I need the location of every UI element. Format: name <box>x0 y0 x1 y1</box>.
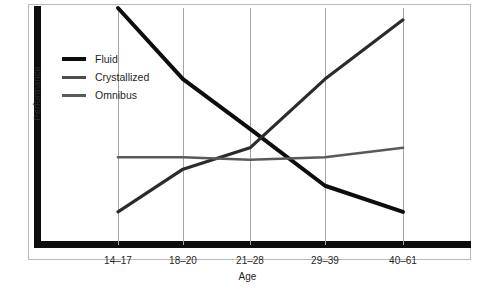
series-line-omnibus <box>118 148 403 160</box>
figure: Fluid Crystallized Omnibus Performance 1… <box>0 0 495 293</box>
x-tick-label-1: 18–20 <box>153 255 213 266</box>
legend-label-omnibus: Omnibus <box>95 89 137 101</box>
plot-lines <box>0 0 495 293</box>
legend-swatch-crystallized <box>62 76 86 79</box>
x-tick-label-0: 14–17 <box>88 255 148 266</box>
chart-legend: Fluid Crystallized Omnibus <box>62 50 149 104</box>
legend-swatch-fluid <box>62 57 86 61</box>
legend-item-fluid: Fluid <box>62 50 149 68</box>
y-axis-label: Performance <box>31 44 42 144</box>
x-tick-label-4: 40–61 <box>373 255 433 266</box>
legend-item-omnibus: Omnibus <box>62 86 149 104</box>
series-line-crystallized <box>118 20 403 212</box>
legend-swatch-omnibus <box>62 94 86 97</box>
legend-label-crystallized: Crystallized <box>95 71 149 83</box>
x-tick-label-2: 21–28 <box>220 255 280 266</box>
legend-label-fluid: Fluid <box>95 53 118 65</box>
legend-item-crystallized: Crystallized <box>62 68 149 86</box>
x-axis-label: Age <box>0 271 495 282</box>
series-line-fluid <box>118 8 403 212</box>
x-tick-label-3: 29–39 <box>295 255 355 266</box>
